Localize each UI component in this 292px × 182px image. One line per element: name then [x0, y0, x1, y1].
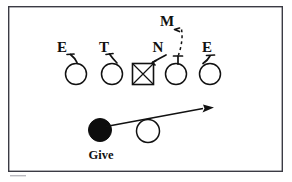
lineman-right-tackle [200, 64, 221, 85]
defender-mike-label: M [160, 13, 174, 29]
ball-carrier [89, 119, 112, 142]
lineman-right-guard [166, 64, 187, 85]
lineman-left-guard [102, 64, 123, 85]
center [133, 64, 154, 85]
defender-tackle-label: T [99, 39, 109, 55]
defender-end-left-label: E [57, 39, 67, 55]
defender-nose-label: N [153, 39, 164, 55]
play-diagram: E T N E M Give [0, 0, 292, 182]
lineman-left-tackle [66, 64, 87, 85]
play-diagram-canvas: E T N E M Give [0, 0, 292, 182]
quarterback [137, 120, 160, 143]
diagram-frame [9, 7, 283, 172]
defender-end-right-label: E [202, 39, 212, 55]
ball-action-give-label: Give [89, 148, 114, 162]
scan-artifact-mark [10, 175, 26, 176]
